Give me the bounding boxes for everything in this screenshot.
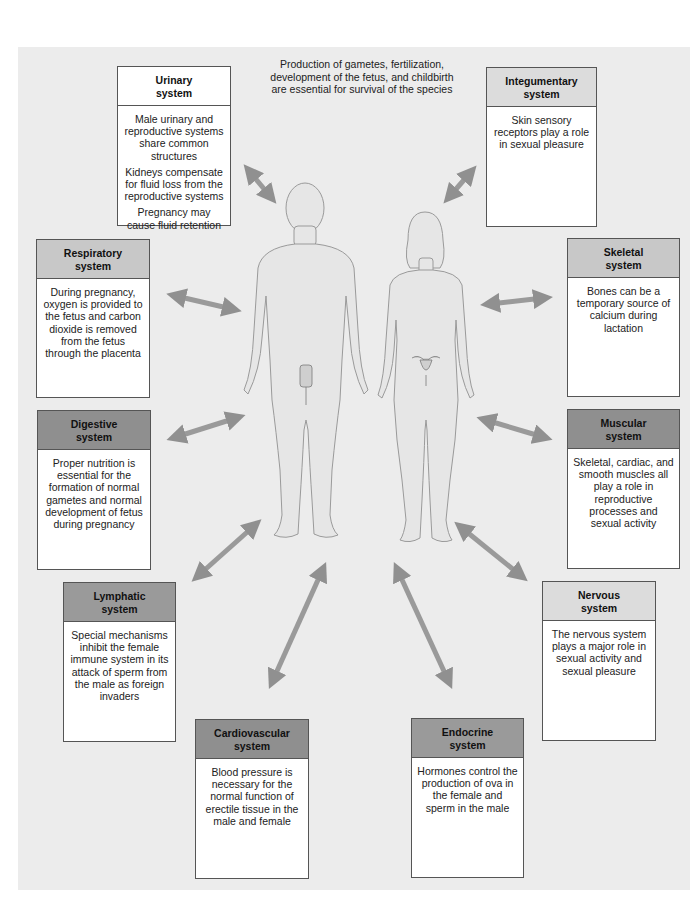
lymphatic-system-box: Lymphatic system Special mechanisms inhi… [63,582,176,742]
endocrine-system-box: Endocrine system Hormones control the pr… [411,718,524,878]
box-body: Special mechanisms inhibit the female im… [64,622,175,713]
box-header: Urinary system [118,67,230,106]
box-header: Nervous system [543,582,655,621]
male-body-figure [244,183,368,537]
box-header: Digestive system [38,411,150,450]
digestive-system-box: Digestive system Proper nutrition is ess… [37,410,151,570]
box-body: Male urinary and reproductive systems sh… [118,106,230,242]
box-header: Integumentary system [487,68,596,107]
arrow-urinary [250,172,270,196]
arrow-lymphatic [199,526,254,575]
respiratory-system-box: Respiratory system During pregnancy, oxy… [36,239,150,398]
box-body: During pregnancy, oxygen is provided to … [37,279,149,370]
muscular-system-box: Muscular system Skeletal, cardiac, and s… [567,409,680,569]
arrow-endocrine [398,571,448,680]
integumentary-system-box: Integumentary system Skin sensory recept… [486,67,597,227]
box-header: Lymphatic system [64,583,175,622]
box-body: Skin sensory receptors play a role in se… [487,107,596,162]
urinary-system-box: Urinary system Male urinary and reproduc… [117,66,231,226]
double-arrow-icons [176,172,543,680]
skeletal-system-box: Skeletal system Bones can be a temporary… [567,238,680,397]
box-header: Endocrine system [412,719,523,758]
cardiovascular-system-box: Cardiovascular system Blood pressure is … [195,719,309,879]
box-body: Proper nutrition is essential for the fo… [38,450,150,541]
box-body: The nervous system plays a major role in… [543,621,655,688]
arrow-integumentary [450,173,470,196]
arrow-respiratory [176,296,232,309]
arrow-muscular [486,420,543,437]
box-body: Hormones control the production of ova i… [412,758,523,825]
box-body: Skeletal, cardiac, and smooth muscles al… [568,449,679,540]
arrow-nervous [462,528,520,575]
box-header: Cardiovascular system [196,720,308,759]
nervous-system-box: Nervous system The nervous system plays … [542,581,656,741]
box-header: Muscular system [568,410,679,449]
box-body: Bones can be a temporary source of calci… [568,278,679,345]
box-header: Respiratory system [37,240,149,279]
box-header: Skeletal system [568,239,679,278]
box-body: Blood pressure is necessary for the norm… [196,759,308,838]
arrow-cardiovascular [273,571,322,680]
arrow-digestive [176,418,236,437]
arrow-skeletal [490,298,543,304]
